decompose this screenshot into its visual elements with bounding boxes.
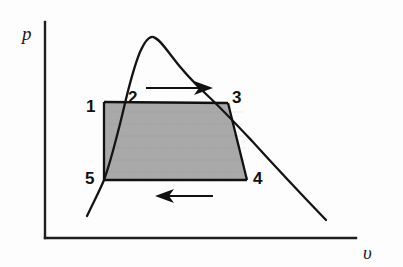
state-label-5: 5 (85, 169, 94, 188)
pv-diagram-figure: p υ 1 2 3 4 5 (0, 0, 403, 267)
pv-diagram-canvas: p υ 1 2 3 4 5 (0, 0, 403, 267)
state-label-3: 3 (232, 88, 241, 107)
state-label-1: 1 (86, 97, 95, 116)
state-label-4: 4 (253, 169, 263, 188)
cycle-outline-top (104, 102, 228, 103)
x-axis-label: υ (363, 242, 372, 263)
y-axis-label: p (20, 23, 32, 44)
state-label-2: 2 (128, 88, 137, 107)
bottom-process-arrow (155, 189, 213, 203)
top-process-arrow (146, 81, 213, 95)
